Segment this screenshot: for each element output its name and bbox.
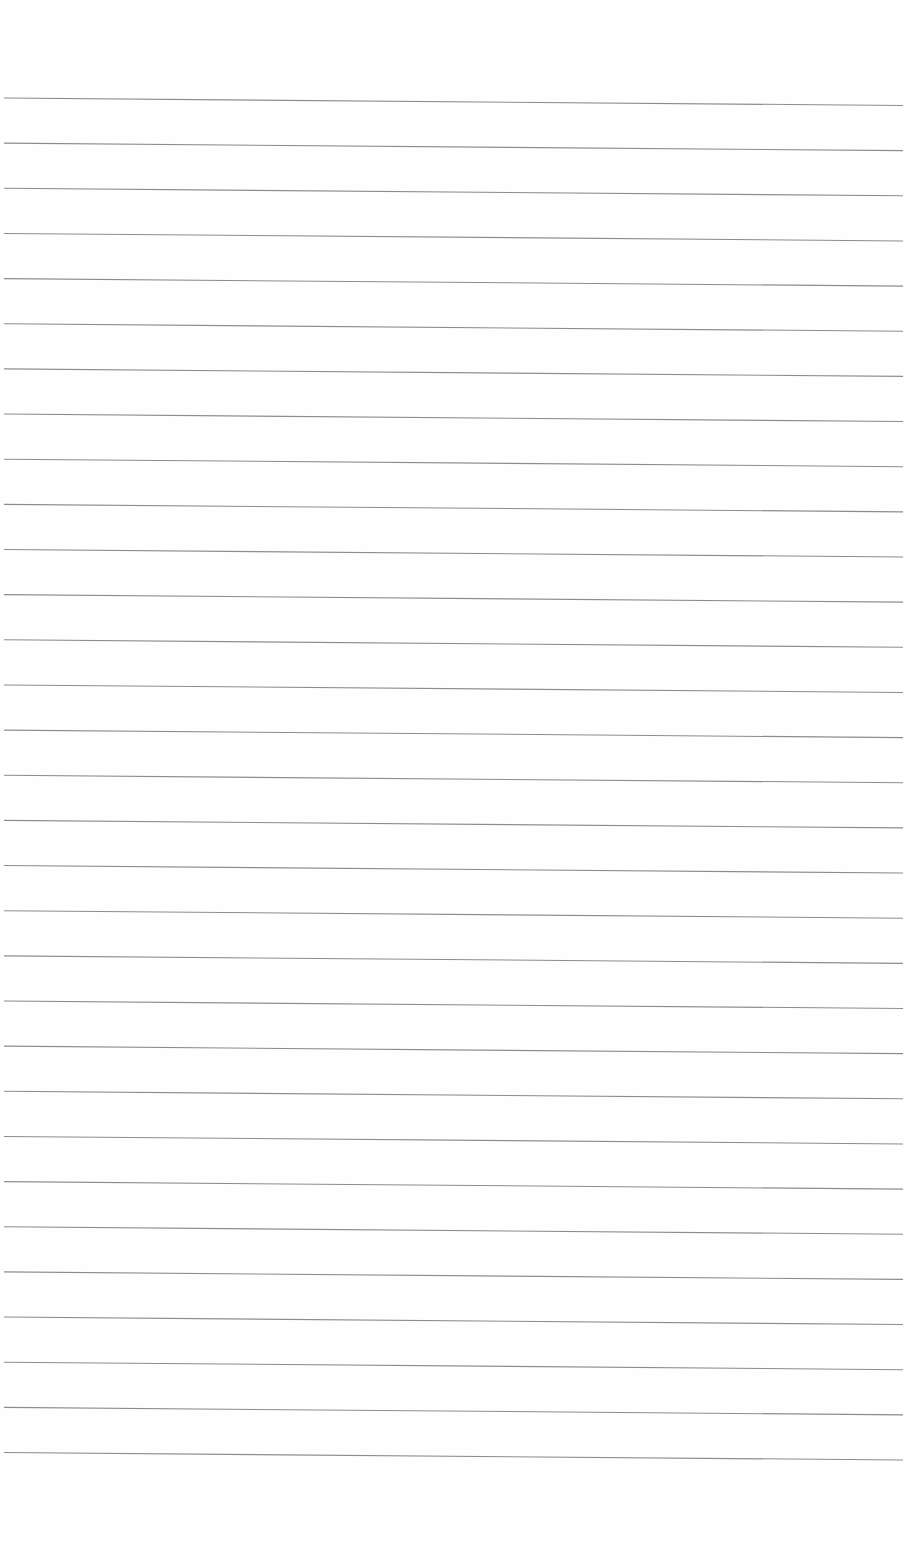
ruled-line [4, 188, 903, 196]
ruled-line [4, 775, 903, 783]
ruled-line [4, 1453, 903, 1461]
ruled-line [4, 459, 903, 467]
ruled-line [4, 324, 903, 332]
ruled-line [4, 1272, 903, 1280]
ruled-line [4, 640, 903, 648]
ruled-line [4, 685, 903, 693]
ruled-line [4, 866, 903, 874]
ruled-line [4, 1136, 903, 1144]
ruled-line [4, 1317, 903, 1325]
ruled-line [4, 143, 903, 151]
ruled-line [4, 369, 903, 377]
ruled-line [4, 1046, 903, 1054]
ruled-line [4, 1091, 903, 1099]
ruled-line [4, 1227, 903, 1235]
ruled-line [4, 550, 903, 558]
lined-paper-page [0, 0, 907, 1560]
ruled-line [4, 414, 903, 422]
ruled-line [4, 233, 903, 241]
ruled-line [4, 1001, 903, 1009]
ruled-line [4, 1407, 903, 1415]
ruled-line [4, 730, 903, 738]
ruled-line [4, 1362, 903, 1370]
ruled-line [4, 911, 903, 919]
ruled-line [4, 956, 903, 964]
ruled-lines [0, 0, 907, 1560]
ruled-line [4, 504, 903, 512]
ruled-line [4, 98, 903, 106]
ruled-line [4, 820, 903, 828]
ruled-line [4, 595, 903, 603]
ruled-line [4, 1182, 903, 1190]
ruled-line [4, 279, 903, 287]
